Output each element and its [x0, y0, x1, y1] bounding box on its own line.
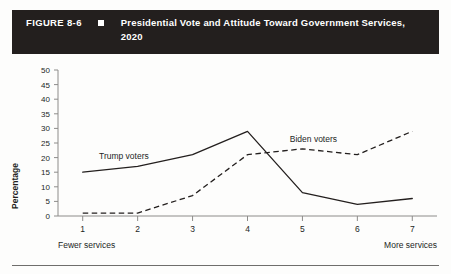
y-tick-label: 45 — [41, 81, 50, 90]
line-chart-svg: Percentage 05101520253035404550 1234567 … — [0, 58, 451, 258]
y-tick-label: 50 — [41, 66, 50, 75]
series-line-trump-voters — [83, 131, 413, 204]
y-tick-label: 35 — [41, 110, 50, 119]
x-tick-label: 3 — [190, 224, 195, 234]
x-tick-label: 1 — [80, 224, 85, 234]
x-tick-label: 4 — [245, 224, 250, 234]
x-tick-label: 2 — [135, 224, 140, 234]
figure-container: FIGURE 8-6 Presidential Vote and Attitud… — [0, 0, 451, 274]
figure-header-bar: FIGURE 8-6 Presidential Vote and Attitud… — [12, 10, 439, 54]
y-tick-label: 5 — [46, 197, 51, 206]
x-axis-ticks: 1234567 — [80, 216, 415, 234]
y-tick-label: 15 — [41, 168, 50, 177]
y-tick-label: 30 — [41, 124, 50, 133]
series-annotation-trump-voters: Trump voters — [99, 151, 149, 161]
x-tick-label: 7 — [410, 224, 415, 234]
square-bullet-icon — [98, 20, 104, 26]
series-line-biden-voters — [83, 131, 413, 213]
y-tick-label: 20 — [41, 154, 50, 163]
y-tick-label: 40 — [41, 95, 50, 104]
y-tick-label: 25 — [41, 139, 50, 148]
y-tick-label: 0 — [46, 212, 51, 221]
chart-plot-area: Percentage 05101520253035404550 1234567 … — [0, 58, 451, 258]
y-tick-label: 10 — [41, 183, 50, 192]
series-annotation-biden-voters: Biden voters — [290, 134, 337, 144]
x-tick-label: 5 — [300, 224, 305, 234]
figure-number-label: FIGURE 8-6 — [26, 16, 82, 29]
x-tick-label: 6 — [355, 224, 360, 234]
x-axis-left-note: Fewer services — [58, 240, 115, 250]
x-axis-right-note: More services — [384, 240, 437, 250]
bottom-divider-rule — [12, 265, 439, 266]
y-axis-ticks: 05101520253035404550 — [41, 66, 58, 221]
figure-title-text: Presidential Vote and Attitude Toward Go… — [121, 16, 421, 43]
y-axis-title: Percentage — [10, 163, 20, 209]
